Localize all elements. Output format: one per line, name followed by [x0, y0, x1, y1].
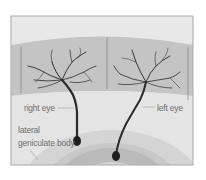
label-geniculate-body: geniculate body	[18, 139, 75, 148]
left-eye-cell-body	[112, 151, 120, 161]
label-lateral: lateral	[18, 126, 40, 135]
label-left-eye: left eye	[157, 104, 183, 113]
retina-band	[11, 37, 193, 97]
label-right-eye: right eye	[24, 104, 55, 113]
neuron-diagram	[0, 0, 206, 180]
